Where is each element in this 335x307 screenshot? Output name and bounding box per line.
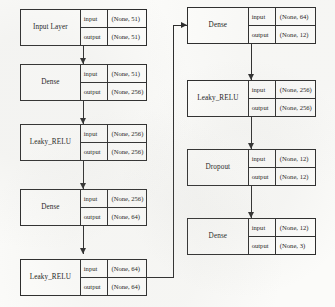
diagram-canvas: Input Layer input (None, 51) output (Non… bbox=[0, 0, 335, 307]
node-output-row: output (None, 12) bbox=[249, 26, 315, 44]
output-label: output bbox=[81, 278, 108, 296]
node-io-table: input (None, 256) output (None, 256) bbox=[80, 125, 146, 160]
node-input-row: input (None, 12) bbox=[249, 150, 315, 168]
output-shape: (None, 3) bbox=[276, 237, 315, 255]
node-output-row: output (None, 3) bbox=[249, 237, 315, 255]
node-label: Dropout bbox=[188, 150, 248, 185]
input-shape: (None, 64) bbox=[108, 260, 146, 277]
output-shape: (None, 64) bbox=[108, 278, 146, 296]
node-io-table: input (None, 12) output (None, 12) bbox=[248, 150, 315, 185]
connector-bridge-segment-up bbox=[173, 25, 174, 278]
node-output-row: output (None, 64) bbox=[81, 278, 146, 296]
node-input-row: input (None, 256) bbox=[81, 125, 146, 143]
input-shape: (None, 51) bbox=[108, 10, 146, 27]
input-shape: (None, 256) bbox=[108, 125, 146, 142]
node-label: Input Layer bbox=[21, 10, 80, 45]
node-label: Leaky_RELU bbox=[21, 125, 80, 160]
node-input-layer: Input Layer input (None, 51) output (Non… bbox=[20, 9, 147, 46]
output-label: output bbox=[81, 143, 108, 161]
node-leaky-relu-2: Leaky_RELU input (None, 64) output (None… bbox=[20, 259, 147, 296]
output-label: output bbox=[249, 168, 276, 186]
node-output-row: output (None, 256) bbox=[81, 143, 146, 161]
input-shape: (None, 12) bbox=[276, 150, 315, 167]
node-output-row: output (None, 256) bbox=[81, 83, 146, 101]
node-label: Leaky_RELU bbox=[21, 260, 80, 295]
arrowhead-into-leaky-relu-2 bbox=[80, 248, 86, 254]
node-input-row: input (None, 64) bbox=[249, 8, 315, 26]
node-label: Dense bbox=[21, 190, 80, 225]
node-dense-2: Dense input (None, 256) output (None, 64… bbox=[20, 189, 147, 226]
output-shape: (None, 256) bbox=[276, 99, 315, 117]
node-io-table: input (None, 12) output (None, 3) bbox=[248, 219, 315, 254]
node-io-table: input (None, 51) output (None, 51) bbox=[80, 10, 146, 45]
node-leaky-relu-1: Leaky_RELU input (None, 256) output (Non… bbox=[20, 124, 147, 161]
output-label: output bbox=[81, 83, 108, 101]
node-input-row: input (None, 256) bbox=[81, 190, 146, 208]
connector-bridge-segment-right bbox=[147, 277, 174, 278]
node-output-row: output (None, 256) bbox=[249, 99, 315, 117]
input-label: input bbox=[81, 260, 108, 277]
output-label: output bbox=[249, 26, 276, 44]
node-label: Dense bbox=[188, 219, 248, 254]
node-io-table: input (None, 51) output (None, 256) bbox=[80, 65, 146, 100]
node-input-row: input (None, 64) bbox=[81, 260, 146, 278]
output-shape: (None, 12) bbox=[276, 168, 315, 186]
input-label: input bbox=[249, 81, 276, 98]
output-shape: (None, 64) bbox=[108, 208, 146, 226]
node-output-row: output (None, 12) bbox=[249, 168, 315, 186]
output-label: output bbox=[249, 237, 276, 255]
node-output-row: output (None, 51) bbox=[81, 28, 146, 46]
input-shape: (None, 51) bbox=[108, 65, 146, 82]
node-io-table: input (None, 64) output (None, 64) bbox=[80, 260, 146, 295]
output-label: output bbox=[249, 99, 276, 117]
node-io-table: input (None, 256) output (None, 256) bbox=[248, 81, 315, 116]
node-io-table: input (None, 256) output (None, 64) bbox=[80, 190, 146, 225]
input-label: input bbox=[81, 190, 108, 207]
output-shape: (None, 256) bbox=[108, 83, 146, 101]
input-label: input bbox=[249, 219, 276, 236]
node-io-table: input (None, 64) output (None, 12) bbox=[248, 8, 315, 43]
input-label: input bbox=[249, 8, 276, 25]
input-shape: (None, 64) bbox=[276, 8, 315, 25]
output-label: output bbox=[81, 208, 108, 226]
node-label: Leaky_RELU bbox=[188, 81, 248, 116]
input-shape: (None, 256) bbox=[276, 81, 315, 98]
input-shape: (None, 12) bbox=[276, 219, 315, 236]
input-label: input bbox=[81, 10, 108, 27]
node-label: Dense bbox=[188, 8, 248, 43]
node-label: Dense bbox=[21, 65, 80, 100]
node-leaky-relu-3: Leaky_RELU input (None, 256) output (Non… bbox=[187, 80, 316, 117]
output-label: output bbox=[81, 28, 108, 46]
node-dense-4: Dense input (None, 12) output (None, 3) bbox=[187, 218, 316, 255]
input-label: input bbox=[81, 65, 108, 82]
node-dense-1: Dense input (None, 51) output (None, 256… bbox=[20, 64, 147, 101]
node-output-row: output (None, 64) bbox=[81, 208, 146, 226]
node-dense-3: Dense input (None, 64) output (None, 12) bbox=[187, 7, 316, 44]
node-input-row: input (None, 51) bbox=[81, 65, 146, 83]
input-label: input bbox=[249, 150, 276, 167]
output-shape: (None, 51) bbox=[108, 28, 146, 46]
input-label: input bbox=[81, 125, 108, 142]
node-input-row: input (None, 12) bbox=[249, 219, 315, 237]
output-shape: (None, 12) bbox=[276, 26, 315, 44]
input-shape: (None, 256) bbox=[108, 190, 146, 207]
output-shape: (None, 256) bbox=[108, 143, 146, 161]
node-input-row: input (None, 51) bbox=[81, 10, 146, 28]
node-input-row: input (None, 256) bbox=[249, 81, 315, 99]
node-dropout-1: Dropout input (None, 12) output (None, 1… bbox=[187, 149, 316, 186]
